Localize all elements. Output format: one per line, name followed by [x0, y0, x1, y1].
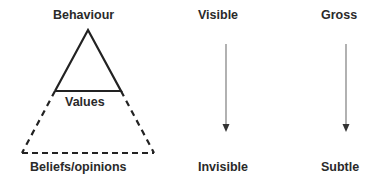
- triangle-solid-outline: [55, 30, 121, 91]
- iceberg-triangle: [22, 30, 154, 153]
- gross-subtle-arrow: [343, 44, 350, 132]
- diagram-graphics: [0, 0, 387, 187]
- label-gross: Gross: [321, 9, 357, 22]
- label-subtle: Subtle: [321, 161, 359, 174]
- label-visible: Visible: [198, 9, 238, 22]
- visible-invisible-arrow: [223, 44, 230, 132]
- label-values: Values: [65, 96, 105, 109]
- arrowhead-icon: [343, 124, 350, 132]
- triangle-dashed-left: [22, 91, 55, 153]
- label-beliefs-opinions: Beliefs/opinions: [30, 161, 127, 174]
- label-behaviour: Behaviour: [53, 9, 114, 22]
- triangle-dashed-right: [121, 91, 154, 153]
- arrowhead-icon: [223, 124, 230, 132]
- label-invisible: Invisible: [198, 161, 248, 174]
